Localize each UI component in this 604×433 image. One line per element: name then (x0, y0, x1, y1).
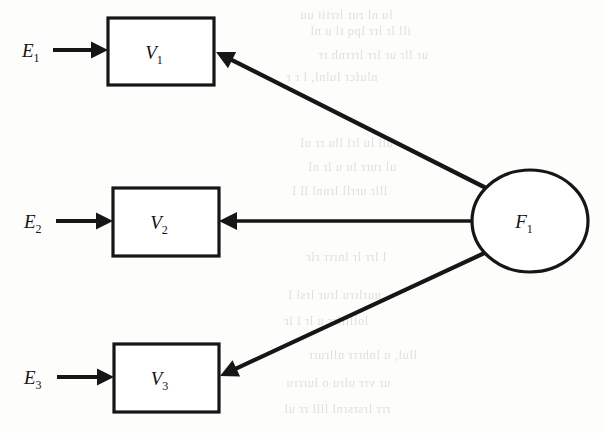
error-label-e1: E1 (21, 40, 40, 65)
path-diagram-figure: lu nl rur lrriii uuill lr lrr lpq tl u n… (0, 0, 604, 433)
error-arrow-e3 (57, 369, 114, 386)
indicator-box-v2 (113, 188, 219, 256)
indicator-node-v1: V1 (108, 18, 214, 85)
latent-node-f1: F1 (472, 170, 588, 272)
error-label-e2: E2 (23, 211, 42, 236)
loading-arrow-f1-v1-line (228, 58, 494, 192)
error-arrow-e2 (56, 213, 113, 230)
error-arrow-e3-head (97, 369, 114, 386)
loading-arrow-f1-v2-head (219, 212, 237, 230)
loading-arrow-f1-v3 (220, 250, 491, 377)
error-label-e3: E3 (23, 367, 42, 392)
error-arrow-e1 (53, 42, 108, 59)
diagram-canvas: V1 V2 V3 F1 E1 E2 (0, 0, 604, 433)
indicator-box-v1 (108, 18, 214, 85)
indicator-box-v3 (114, 344, 219, 412)
latent-circle-f1 (472, 170, 588, 272)
loading-arrow-f1-v1 (216, 52, 494, 192)
loading-arrow-f1-v3-line (232, 250, 491, 370)
error-arrow-e1-head (91, 42, 108, 59)
indicator-node-v2: V2 (113, 188, 219, 256)
indicator-node-v3: V3 (114, 344, 219, 412)
error-arrow-e2-head (96, 213, 113, 230)
loading-arrow-f1-v2 (219, 212, 472, 230)
